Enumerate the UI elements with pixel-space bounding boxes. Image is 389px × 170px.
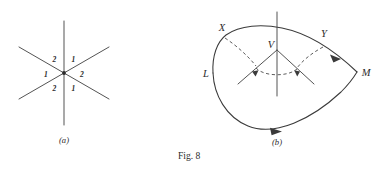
panel-b-lower-boundary-curve [213,72,357,129]
panel-b-upper-arrowhead [330,55,341,63]
figure-caption: Fig. 8 [178,150,201,161]
panel-b-point-label-L: L [202,68,209,79]
panel-b-ray-down-right [277,50,314,84]
panel-b-upper-boundary-curve [213,26,357,73]
panel-b-point-label-V: V [268,39,276,50]
figure-8-container: 2 1 1 2 2 1 (a) [0,0,389,170]
panel-a-sector-label-bottom-left: 2 [52,84,57,93]
panel-b-point-label-M: M [361,67,372,78]
panel-b-dashed-arc-from-y [297,47,323,68]
panel-a-sector-label-bottom-right: 1 [72,84,76,93]
panel-b-point-label-Y: Y [321,28,328,39]
panel-a-caption: (a) [59,135,69,145]
panel-b-point-label-X: X [218,22,226,33]
panel-a-sector-label-right: 2 [79,70,84,79]
panel-a-sector-label-left: 1 [44,70,48,79]
panel-a-sector-label-top-right: 1 [72,55,76,64]
panel-a-diagram: 2 1 1 2 2 1 [19,21,109,125]
figure-8-svg: 2 1 1 2 2 1 (a) [0,0,389,170]
panel-b-ray-down-left [238,50,277,84]
panel-a-intersection-node [62,71,66,75]
panel-b-diagram: L M X Y V [202,12,372,135]
panel-a-sector-label-top-left: 2 [52,55,57,64]
panel-b-ray-right-arrowhead [294,70,300,76]
panel-b-caption: (b) [272,137,282,147]
panel-b-dashed-arc-from-x [225,38,256,66]
